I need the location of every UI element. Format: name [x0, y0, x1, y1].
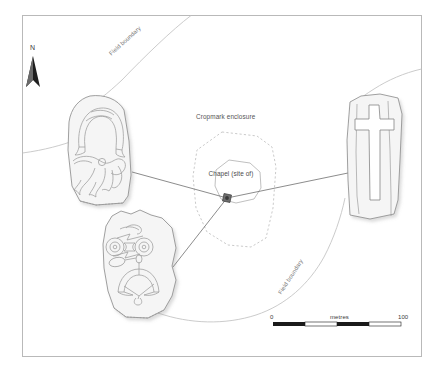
scale-bar — [273, 322, 401, 326]
scale-bar-segment-1 — [273, 322, 305, 326]
site-plan-graphic — [0, 0, 438, 371]
scale-bar-segment-4 — [369, 322, 401, 326]
chapel-site-marker — [222, 193, 231, 202]
scale-bar-segment-3 — [337, 322, 369, 326]
site-plan-figure: N Cropmark enclosure Chapel (site of) Fi… — [0, 0, 438, 371]
stone-cross-slab — [347, 94, 402, 219]
scale-bar-segment-2 — [305, 322, 337, 326]
stone-lower-left — [103, 210, 176, 318]
stone-upper-left — [68, 96, 131, 205]
